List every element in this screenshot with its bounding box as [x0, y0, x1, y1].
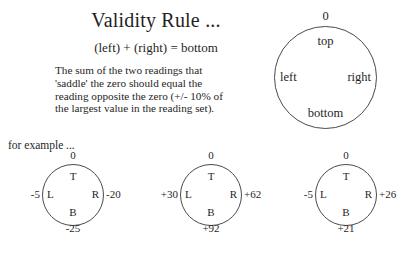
example-3-top-letter: T	[315, 170, 377, 182]
explanation-line-2: 'saddle' the zero should equal the	[55, 77, 267, 90]
example-3-right-letter: R	[365, 188, 372, 200]
example-circle-3: 0 T L R B -5 +26 +21	[315, 164, 377, 226]
reference-zero-label: 0	[274, 9, 377, 23]
reference-left-label: left	[280, 70, 297, 84]
reference-top-label: top	[274, 34, 377, 48]
explanation-paragraph: The sum of the two readings that 'saddle…	[55, 64, 267, 115]
example-3-left-letter: L	[320, 188, 327, 200]
example-1-right-value: -20	[106, 188, 121, 200]
example-1-bottom-value: -25	[42, 222, 104, 234]
example-circle-2: 0 T L R B +30 +62 +92	[180, 164, 242, 226]
explanation-line-1: The sum of the two readings that	[55, 64, 267, 77]
example-2-right-value: +62	[244, 188, 261, 200]
example-1-right-letter: R	[92, 188, 99, 200]
example-1-top-letter: T	[42, 170, 104, 182]
reference-bottom-label: bottom	[274, 106, 377, 120]
example-3-bottom-letter: B	[315, 206, 377, 218]
example-2-right-letter: R	[230, 188, 237, 200]
example-2-zero-label: 0	[180, 149, 242, 161]
reference-circle-diagram: 0 top left right bottom	[274, 26, 377, 129]
example-1-bottom-letter: B	[42, 206, 104, 218]
example-2-bottom-letter: B	[180, 206, 242, 218]
example-3-zero-label: 0	[315, 149, 377, 161]
page-title: Validity Rule ...	[56, 8, 256, 32]
example-2-bottom-value: +92	[180, 222, 242, 234]
example-3-right-value: +26	[379, 188, 396, 200]
example-3-bottom-value: +21	[315, 222, 377, 234]
example-2-top-letter: T	[180, 170, 242, 182]
slide-canvas: Validity Rule ... (left) + (right) = bot…	[0, 0, 402, 258]
example-3-left-value: -5	[304, 188, 313, 200]
reference-right-label: right	[347, 70, 371, 84]
validity-formula: (left) + (right) = bottom	[46, 40, 266, 56]
example-2-left-letter: L	[185, 188, 192, 200]
explanation-line-4: the largest value in the reading set).	[55, 102, 267, 115]
example-circle-1: 0 T L R B -5 -20 -25	[42, 164, 104, 226]
example-1-left-letter: L	[47, 188, 54, 200]
example-1-zero-label: 0	[42, 149, 104, 161]
explanation-line-3: reading opposite the zero (+/- 10% of	[55, 90, 267, 103]
example-2-left-value: +30	[161, 188, 178, 200]
example-1-left-value: -5	[31, 188, 40, 200]
